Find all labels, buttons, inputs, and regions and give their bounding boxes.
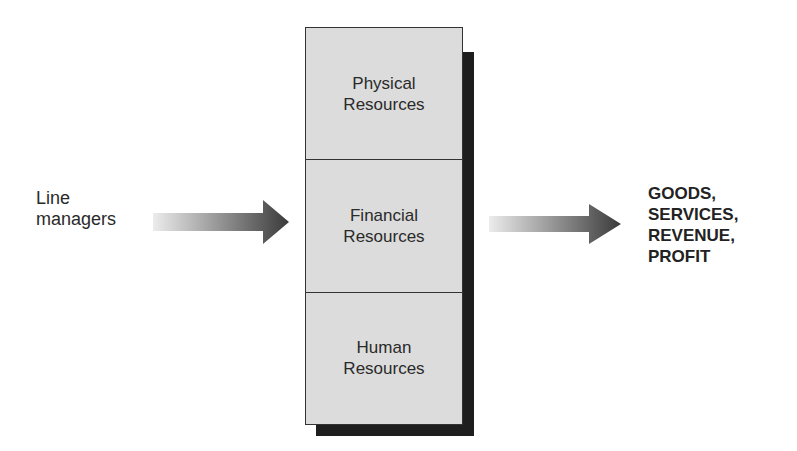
- resource-label: Human Resources: [343, 337, 424, 379]
- resource-financial: Financial Resources: [306, 160, 462, 292]
- arrow-right-icon: [489, 204, 621, 244]
- input-label-line-managers: Line managers: [36, 188, 116, 230]
- resource-physical: Physical Resources: [306, 28, 462, 160]
- resource-label: Financial Resources: [343, 205, 424, 247]
- resource-human: Human Resources: [306, 293, 462, 424]
- resources-stack: Physical Resources Financial Resources H…: [305, 27, 463, 425]
- arrow-right-icon: [153, 200, 289, 244]
- resource-label: Physical Resources: [343, 73, 424, 115]
- output-label: GOODS, SERVICES, REVENUE, PROFIT: [648, 183, 738, 267]
